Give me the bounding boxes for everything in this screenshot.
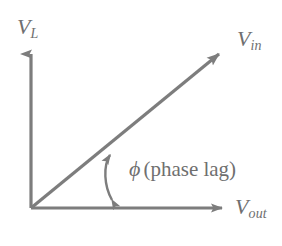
horizontal-axis-subscript: out [248,206,267,221]
vin-vector-subscript: in [250,38,261,53]
vertical-axis-label: VL [17,16,38,41]
vertical-axis-subscript: L [30,26,38,41]
phase-angle-label: ϕ(phase lag) [129,158,236,180]
vertical-axis-symbol: V [17,14,30,39]
vin-vector-line [31,54,219,208]
phi-symbol: ϕ [129,156,143,181]
phase-lag-text: (phase lag) [143,157,236,181]
horizontal-axis-symbol: V [235,194,248,219]
vin-vector-symbol: V [237,26,250,51]
phase-angle-arc [105,155,112,200]
phasor-diagram-figure: VL Vin Vout ϕ(phase lag) [0,0,282,246]
vin-vector-label: Vin [237,28,262,53]
horizontal-axis-label: Vout [235,196,267,221]
